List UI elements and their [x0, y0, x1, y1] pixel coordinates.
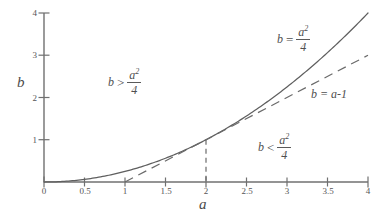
- annotation-curve-label: b = a2 4: [277, 25, 310, 53]
- annotation-line-label-text: b = a-1: [311, 88, 347, 100]
- annotation-region-above-relation: >: [117, 76, 124, 89]
- x-tick-label-1: 0.5: [79, 186, 90, 196]
- annotation-region-below-relation: <: [267, 141, 274, 154]
- annotation-curve-label-denominator: 4: [296, 39, 310, 53]
- x-tick-label-8: 4: [366, 186, 371, 196]
- annotation-curve-label-fraction: a2 4: [296, 25, 310, 53]
- annotation-region-below: b < a2 4: [258, 133, 291, 161]
- annotation-region-above-denominator: 4: [127, 82, 141, 96]
- x-tick-label-7: 3.5: [322, 186, 333, 196]
- y-tick-label-2: 2: [33, 93, 38, 103]
- y-axis-label: b: [17, 74, 25, 91]
- annotation-region-above-numerator: a2: [127, 68, 141, 82]
- annotation-region-above: b > a2 4: [108, 68, 141, 96]
- annotation-region-above-var: b: [108, 76, 114, 88]
- annotation-region-below-fraction: a2 4: [277, 133, 291, 161]
- x-tick-label-6: 3: [285, 186, 290, 196]
- annotation-region-above-fraction: a2 4: [127, 68, 141, 96]
- annotation-curve-label-var: b: [277, 33, 283, 45]
- x-axis-label: a: [199, 196, 207, 213]
- x-tick-label-2: 1: [123, 186, 128, 196]
- annotation-curve-label-relation: =: [286, 33, 293, 46]
- annotation-line-label: b = a-1: [311, 88, 347, 100]
- y-tick-label-1: 1: [33, 135, 38, 145]
- annotation-curve-label-numerator: a2: [296, 25, 310, 39]
- annotation-region-below-var: b: [258, 141, 264, 153]
- x-tick-label-0: 0: [42, 186, 47, 196]
- x-tick-label-5: 2.5: [241, 186, 252, 196]
- figure-parabola-tangent-line: b a 0 0.5 1 1.5 2 2.5 3 3.5 4 1 2 3 4 b …: [0, 0, 382, 223]
- y-tick-label-3: 3: [33, 50, 38, 60]
- x-tick-label-4: 2: [204, 186, 209, 196]
- y-tick-label-4: 4: [33, 8, 38, 18]
- x-tick-label-3: 1.5: [160, 186, 171, 196]
- line-tangent-b-equals-a-minus-1: [125, 55, 368, 182]
- annotation-region-below-numerator: a2: [277, 133, 291, 147]
- annotation-region-below-denominator: 4: [277, 147, 291, 161]
